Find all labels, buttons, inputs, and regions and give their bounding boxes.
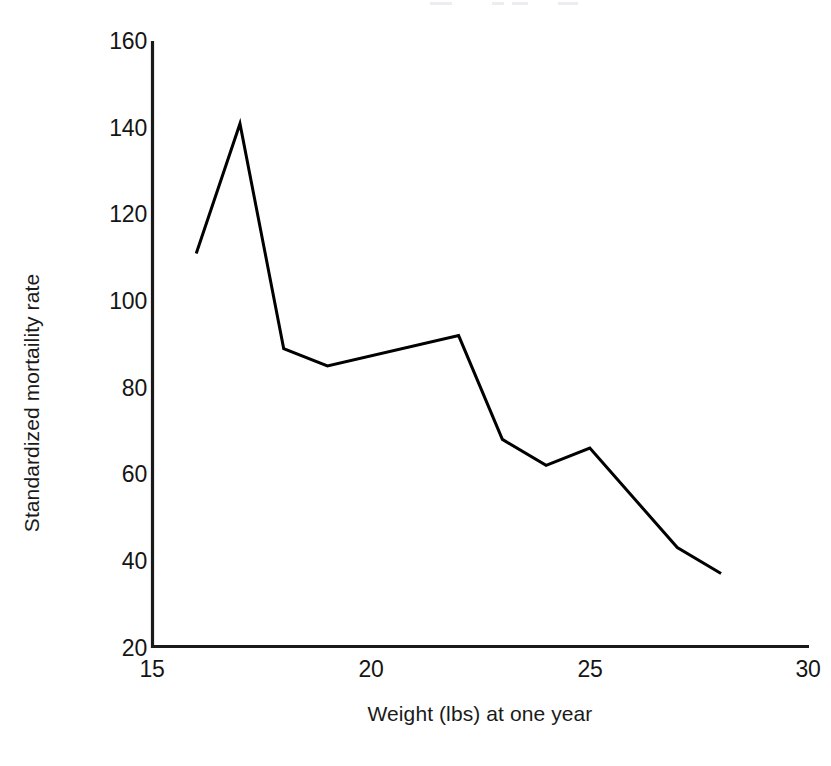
chart-figure: Standardized mortaility rate Weight (lbs…: [0, 0, 831, 766]
plot-area: [0, 0, 831, 766]
data-series-line: [196, 124, 721, 574]
